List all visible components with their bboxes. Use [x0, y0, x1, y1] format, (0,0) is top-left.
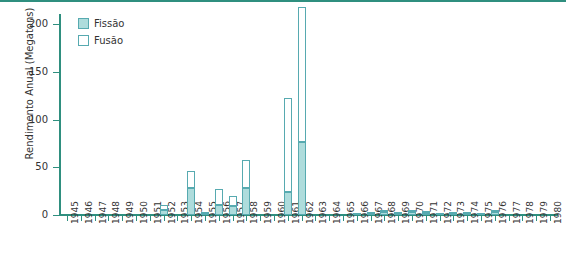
bar-1954: [187, 171, 195, 215]
x-axis-tick-mark: [343, 216, 344, 221]
x-axis-tick-mark: [122, 216, 123, 221]
legend-item-fusao: Fusão: [78, 33, 188, 48]
x-axis-tick-mark: [550, 216, 551, 221]
y-axis-tick-mark: [53, 24, 60, 25]
x-axis-tick-mark: [495, 216, 496, 221]
x-axis-tick-mark: [412, 216, 413, 221]
x-axis-tick-mark: [384, 216, 385, 221]
x-axis-tick-mark: [191, 216, 192, 221]
bar-1967: [367, 213, 375, 215]
bar-segment-fissao: [284, 192, 292, 215]
bar-segment-fissao: [422, 213, 430, 215]
bar-segment-fissao: [242, 188, 250, 215]
x-axis-tick-mark: [219, 216, 220, 221]
bar-segment-fissao: [394, 213, 402, 215]
x-axis-tick-mark: [536, 216, 537, 221]
bar-segment-fissao: [298, 142, 306, 215]
x-axis-tick-mark: [302, 216, 303, 221]
legend-label-fusao: Fusão: [94, 35, 123, 46]
plot-area: [60, 24, 558, 215]
bar-1970: [408, 210, 416, 215]
x-axis-tick-mark: [398, 216, 399, 221]
x-axis-tick-mark: [329, 216, 330, 221]
y-axis-tick-label: 100: [29, 115, 48, 125]
x-axis-tick-mark: [288, 216, 289, 221]
x-axis-tick-mark: [246, 216, 247, 221]
y-axis-tick-mark: [53, 215, 60, 216]
bar-1976: [491, 210, 499, 215]
x-axis-tick-mark: [136, 216, 137, 221]
y-axis-tick-mark: [53, 120, 60, 121]
bar-segment-fusao: [187, 171, 195, 188]
y-axis-tick-mark: [53, 167, 60, 168]
bar-segment-fissao: [408, 212, 416, 215]
annual-yield-bar-chart: Rendimento Anual (Megatons) 050100150200…: [0, 0, 566, 263]
bar-1958: [242, 160, 250, 215]
bar-segment-fissao: [436, 213, 444, 215]
bar-segment-fissao: [215, 205, 223, 216]
bar-1956: [215, 189, 223, 215]
x-axis-tick-mark: [315, 216, 316, 221]
legend-swatch-fissao-icon: [78, 18, 89, 29]
x-axis-tick-mark: [440, 216, 441, 221]
x-axis-tick-mark: [164, 216, 165, 221]
y-axis-tick-label: 0: [42, 210, 48, 220]
bar-1961: [284, 98, 292, 215]
x-axis-tick-mark: [177, 216, 178, 221]
bar-segment-fissao: [229, 206, 237, 215]
x-axis-tick-mark: [81, 216, 82, 221]
x-axis-tick-mark: [509, 216, 510, 221]
bar-1972: [436, 213, 444, 215]
bar-segment-fusao: [215, 189, 223, 204]
y-axis-tick-label: 200: [29, 19, 48, 29]
bar-1968: [380, 210, 388, 215]
y-axis-tick-label: 150: [29, 67, 48, 77]
bar-segment-fusao: [229, 196, 237, 206]
bar-segment-fusao: [284, 98, 292, 193]
y-axis-tick-label: 50: [35, 162, 48, 172]
bar-segment-fusao: [298, 7, 306, 143]
bar-segment-fusao: [242, 160, 250, 189]
x-axis-tick-mark: [371, 216, 372, 221]
bar-1971: [422, 213, 430, 215]
x-axis-tick-mark: [95, 216, 96, 221]
chart-screenshot: Rendimento Anual (Megatons) 050100150200…: [0, 0, 566, 263]
bar-1974: [463, 213, 471, 215]
bar-1952: [160, 205, 168, 216]
bar-1969: [394, 213, 402, 215]
x-axis-tick-mark: [150, 216, 151, 221]
x-axis-tick-mark: [357, 216, 358, 221]
bar-segment-fissao: [187, 188, 195, 215]
x-axis-tick-mark: [274, 216, 275, 221]
x-axis-tick-mark: [233, 216, 234, 221]
x-axis-tick-mark: [67, 216, 68, 221]
bar-1975: [477, 213, 485, 215]
bar-segment-fissao: [477, 213, 485, 215]
bar-segment-fissao: [380, 212, 388, 215]
legend-swatch-fusao-icon: [78, 35, 89, 46]
bar-segment-fissao: [201, 213, 209, 215]
bar-1955: [201, 212, 209, 215]
x-axis-tick-mark: [426, 216, 427, 221]
y-axis-tick-mark: [53, 72, 60, 73]
x-axis-tick-mark: [453, 216, 454, 221]
bar-segment-fissao: [160, 210, 168, 215]
bar-segment-fissao: [353, 213, 361, 215]
x-axis-tick-mark: [481, 216, 482, 221]
legend-item-fissao: Fissão: [78, 16, 188, 31]
legend-label-fissao: Fissão: [94, 18, 124, 29]
x-axis-tick-mark: [522, 216, 523, 221]
bar-1962: [298, 7, 306, 215]
x-axis-tick-mark: [467, 216, 468, 221]
bar-segment-fissao: [463, 213, 471, 215]
bar-1966: [353, 213, 361, 215]
bar-segment-fissao: [449, 213, 457, 215]
x-axis-tick-mark: [260, 216, 261, 221]
bar-1973: [449, 213, 457, 215]
bar-segment-fissao: [491, 212, 499, 215]
bar-segment-fissao: [367, 213, 375, 215]
bar-1957: [229, 196, 237, 215]
x-axis-tick-mark: [108, 216, 109, 221]
x-axis-tick-mark: [205, 216, 206, 221]
chart-legend: Fissão Fusão: [78, 16, 188, 50]
